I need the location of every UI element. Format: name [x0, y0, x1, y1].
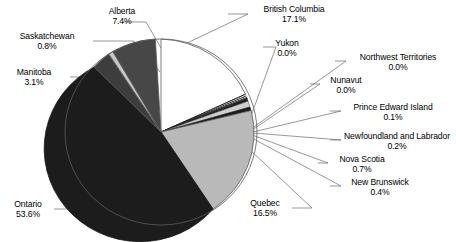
label-british-columbia-name: British Columbia	[250, 4, 338, 14]
label-newfoundland-and-labrador: Newfoundland and Labrador 0.2%	[338, 131, 456, 152]
label-manitoba-name: Manitoba	[0, 67, 68, 77]
label-yukon: Yukon 0.0%	[266, 38, 308, 59]
label-northwest-territories: Northwest Territories 0.0%	[345, 52, 451, 73]
label-new-brunswick: New Brunswick 0.4%	[338, 177, 422, 198]
label-alberta-value: 7.4%	[78, 16, 166, 26]
label-nunavut-name: Nunavut	[318, 75, 374, 85]
label-newfoundland-and-labrador-name: Newfoundland and Labrador	[338, 131, 456, 141]
label-alberta-name: Alberta	[78, 6, 166, 16]
leader-newfoundland-and-labrador	[253, 133, 341, 140]
leader-prince-edward-island	[253, 111, 341, 132]
label-saskatchewan-name: Saskatchewan	[2, 31, 92, 41]
pie-slices	[44, 39, 257, 242]
label-nunavut: Nunavut 0.0%	[318, 75, 374, 96]
label-yukon-value: 0.0%	[266, 48, 308, 58]
leader-nunavut	[252, 84, 320, 130]
label-ontario-value: 53.6%	[2, 209, 54, 219]
label-yukon-name: Yukon	[266, 38, 308, 48]
label-ontario-name: Ontario	[2, 199, 54, 209]
label-newfoundland-and-labrador-value: 0.2%	[338, 141, 456, 151]
pie-chart: Alberta 7.4% Saskatchewan 0.8% Manitoba …	[0, 0, 456, 242]
label-northwest-territories-value: 0.0%	[345, 62, 451, 72]
label-quebec-value: 16.5%	[238, 208, 292, 218]
label-british-columbia-value: 17.1%	[250, 14, 338, 24]
label-quebec: Quebec 16.5%	[238, 198, 292, 219]
label-manitoba-value: 3.1%	[0, 77, 68, 87]
label-new-brunswick-name: New Brunswick	[338, 177, 422, 187]
label-prince-edward-island-name: Prince Edward Island	[340, 102, 446, 112]
label-nova-scotia: Nova Scotia 0.7%	[325, 154, 399, 175]
label-new-brunswick-value: 0.4%	[338, 187, 422, 197]
label-quebec-name: Quebec	[238, 198, 292, 208]
label-nova-scotia-value: 0.7%	[325, 164, 399, 174]
label-alberta: Alberta 7.4%	[78, 6, 166, 27]
label-manitoba: Manitoba 3.1%	[0, 67, 68, 88]
label-nova-scotia-name: Nova Scotia	[325, 154, 399, 164]
label-saskatchewan-value: 0.8%	[2, 41, 92, 51]
label-prince-edward-island-value: 0.1%	[340, 112, 446, 122]
label-british-columbia: British Columbia 17.1%	[250, 4, 338, 25]
label-prince-edward-island: Prince Edward Island 0.1%	[340, 102, 446, 123]
label-northwest-territories-name: Northwest Territories	[345, 52, 451, 62]
label-nunavut-value: 0.0%	[318, 85, 374, 95]
label-saskatchewan: Saskatchewan 0.8%	[2, 31, 92, 52]
leader-british-columbia	[185, 14, 248, 44]
label-ontario: Ontario 53.6%	[2, 199, 54, 220]
